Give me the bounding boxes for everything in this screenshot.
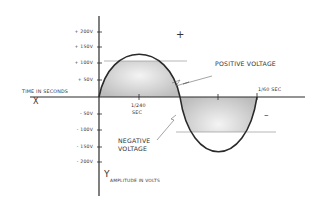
positive-pointer-arrow xyxy=(172,76,212,86)
y-tick-label: - 50V xyxy=(63,112,93,117)
y-axis-label: AMPLITUDE IN VOLTS xyxy=(110,179,160,183)
y-tick-label: + 100V xyxy=(63,61,93,66)
y-tick-label: - 150V xyxy=(63,145,93,150)
x-axis-marker: X xyxy=(33,98,39,106)
y-tick-label: - 100V xyxy=(63,128,93,133)
plus-sign: + xyxy=(176,30,185,40)
y-tick-label: + 200V xyxy=(63,30,93,35)
negative-shaded-region xyxy=(180,97,257,152)
x-tick-label-1-60: 1/60 SEC xyxy=(258,88,281,93)
y-tick-label: + 50V xyxy=(63,78,93,83)
negative-voltage-label-line2: VOLTAGE xyxy=(118,146,147,152)
negative-pointer-arrow xyxy=(157,115,176,140)
y-tick-label: - 200V xyxy=(63,160,93,165)
x-axis-label: TIME IN SECONDS xyxy=(22,90,68,95)
y-axis-marker: Y xyxy=(104,170,110,179)
negative-voltage-label-line1: NEGATIVE xyxy=(118,138,150,144)
sine-wave-diagram xyxy=(0,0,325,221)
positive-voltage-label: POSITIVE VOLTAGE xyxy=(215,61,276,67)
x-tick-label-1-240-sec: SEC xyxy=(132,111,142,116)
y-tick-label: + 150V xyxy=(63,45,93,50)
minus-sign: – xyxy=(264,111,269,120)
x-tick-label-1-240: 1/240 xyxy=(131,104,146,109)
